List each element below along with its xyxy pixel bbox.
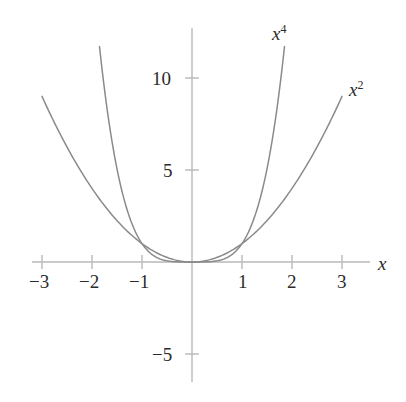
x-tick-label-neg1: −1 (129, 272, 149, 291)
y-tick-label-10: 10 (152, 69, 171, 88)
x-axis-label: x (378, 254, 386, 273)
x4-curve-label-exponent: 4 (280, 22, 286, 36)
y-tick-label-5: 5 (163, 161, 173, 180)
x-tick-label-neg3: −3 (29, 272, 49, 291)
x-tick-label-neg2: −2 (79, 272, 99, 291)
x-tick-label-2: 2 (287, 272, 297, 291)
y-tick-label-neg5: −5 (152, 345, 172, 364)
x2-curve-label-exponent: 2 (357, 78, 363, 92)
function-plot: −3 −2 −1 1 2 3 10 5 −5 x x4 x2 (0, 0, 406, 402)
x-tick-label-3: 3 (337, 272, 347, 291)
x4-curve-label: x4 (272, 24, 286, 43)
x2-curve-label: x2 (349, 80, 363, 99)
x-tick-label-1: 1 (238, 272, 248, 291)
plot-canvas (0, 0, 406, 402)
